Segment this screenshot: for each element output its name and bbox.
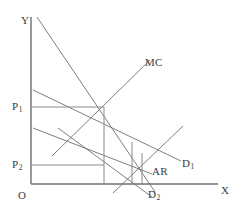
curve-d2-label: D2 — [148, 189, 160, 200]
curve-d1-line — [33, 90, 181, 161]
price-p2-text: P — [12, 158, 18, 170]
price-p1-subscript: 1 — [19, 105, 23, 114]
curve-d1-subscript: 1 — [190, 162, 194, 171]
curve-d2-subscript: 2 — [156, 193, 160, 202]
price-p1-text: P — [12, 100, 18, 112]
y-axis-label: Y — [21, 15, 29, 26]
price-p1-label: P1 — [12, 101, 22, 112]
curve-mc-line — [52, 60, 150, 156]
x-axis-label: X — [221, 185, 229, 196]
origin-label: O — [18, 190, 26, 201]
curve-d1-text: D — [182, 157, 190, 169]
reference-lines-group — [31, 107, 142, 184]
curve-d1-label: D1 — [182, 158, 194, 169]
curve-ar-line — [33, 128, 152, 174]
curve-rising-right-line — [113, 126, 183, 193]
curve-mc-label: MC — [145, 57, 163, 68]
curve-d2-line — [37, 17, 155, 192]
curve-d2-text: D — [148, 188, 156, 200]
curve-mr-lower-line — [58, 128, 152, 197]
price-discrimination-diagram — [0, 0, 244, 211]
price-p2-subscript: 2 — [19, 163, 23, 172]
figure-container: Y X O P1 P2 MC AR D1 D2 — [0, 0, 244, 211]
curve-ar-label: AR — [152, 166, 168, 177]
price-p2-label: P2 — [12, 159, 22, 170]
